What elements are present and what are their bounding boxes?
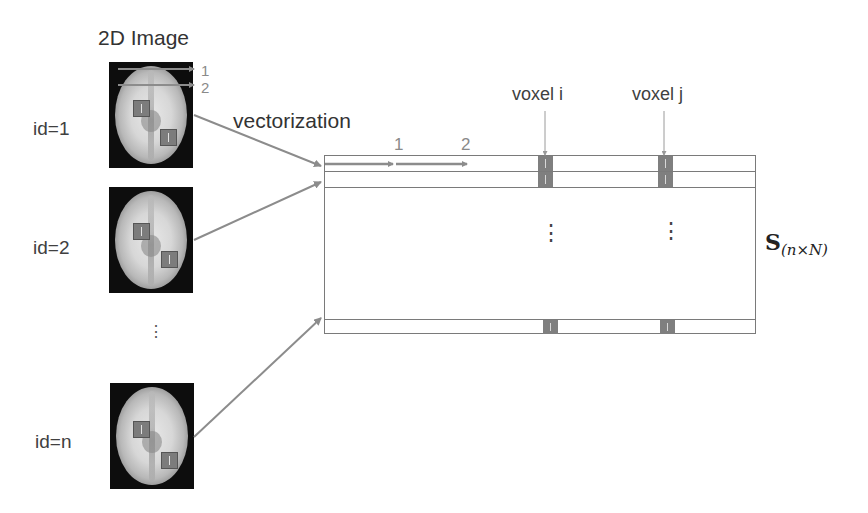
subjects-ellipsis: ⋮ [148,322,164,341]
matrix-cell-voxel-i-row-1 [538,156,553,171]
matrix-cell-voxel-j-row-1 [658,156,673,171]
voxel-i-label: voxel i [512,84,563,105]
voxel-j-marker [161,251,178,268]
vectorization-label: vectorization [233,109,351,133]
voxel-i-marker [133,223,150,240]
voxel-pointer-arrows [545,111,664,155]
vectorization-arrows [194,115,321,437]
subject-label-2: id=2 [33,237,69,259]
matrix-cell-voxel-j-row-2 [658,172,673,187]
voxel-j-marker [161,452,178,469]
brain-image-1 [109,62,193,168]
row-order-label-1: 1 [394,135,403,155]
matrix-row-divider [324,187,756,188]
voxel-j-label: voxel j [632,84,683,105]
matrix-cell-voxel-i-row-n [543,320,558,334]
row-order-label-2: 2 [461,135,470,155]
matrix-dims: (n×N) [781,241,828,259]
brain-image-2 [109,187,193,293]
brain-image-n [110,383,194,489]
matrix-ellipsis-voxel-i: ⋮ [540,228,550,237]
scan-line-label-1: 1 [201,62,209,79]
matrix-ellipsis-voxel-j: ⋮ [660,226,670,235]
matrix-row-divider [324,319,756,320]
subject-label-1: id=1 [33,118,69,140]
voxel-i-marker [133,100,150,117]
matrix-cell-voxel-j-row-n [660,320,675,334]
voxel-i-marker [133,421,150,438]
subject-label-n: id=n [35,431,71,453]
matrix-name: S [765,229,781,255]
matrix-cell-voxel-i-row-2 [538,172,553,187]
matrix-label: S(n×N) [765,229,828,259]
image-title: 2D Image [98,26,189,50]
voxel-j-marker [160,129,177,146]
scan-line-label-2: 2 [201,79,209,96]
